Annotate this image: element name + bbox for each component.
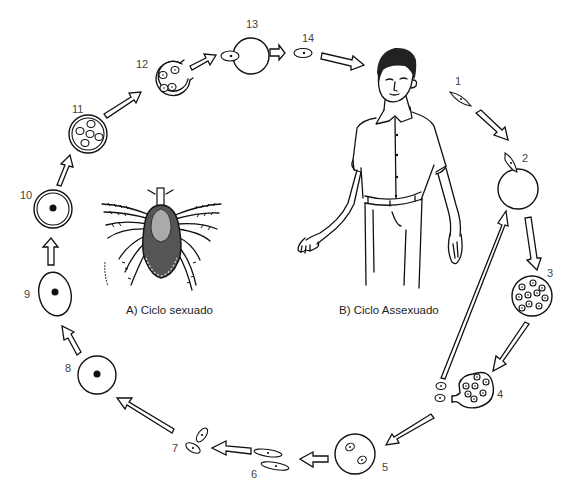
human-illustration (298, 48, 462, 288)
arrow-2-3 (525, 217, 541, 270)
arrow-11-12 (104, 92, 141, 118)
stage-3-label: 3 (547, 267, 553, 279)
arrow-5-6 (300, 452, 328, 467)
arrow-4-return-2 (441, 211, 508, 379)
stage-2-label: 2 (522, 152, 528, 164)
arrow-12-13 (190, 54, 216, 70)
sexual-cycle-caption: A) Ciclo sexuado (126, 304, 213, 316)
arrow-10-11 (57, 155, 73, 186)
stage-11: 11 (69, 103, 107, 153)
arrow-6-7 (212, 441, 251, 455)
arrow-7-8 (117, 398, 174, 433)
stage-13-label: 13 (246, 18, 258, 30)
stage-1-label: 1 (455, 75, 461, 87)
stage-5-label: 5 (382, 461, 388, 473)
stage-11-label: 11 (72, 103, 83, 115)
stage-14: 14 (294, 32, 314, 58)
stage-12-label: 12 (136, 58, 148, 70)
stage-9-label: 9 (24, 288, 30, 300)
stage-10-label: 10 (20, 189, 32, 201)
babesia-life-cycle-diagram: 13 14 12 11 (0, 0, 571, 495)
stage-6-label: 6 (251, 468, 257, 480)
stage-7-label: 7 (172, 442, 178, 454)
stage-10: 10 (20, 189, 72, 228)
stage-8: 8 (65, 356, 116, 394)
stage-12: 12 (136, 58, 193, 96)
asexual-cycle-caption: B) Ciclo Assexuado (339, 304, 439, 316)
arrow-3-4 (493, 322, 529, 371)
arrow-1-2 (476, 110, 508, 140)
stage-9: 9 (24, 269, 75, 319)
tick-illustration (102, 188, 221, 290)
stage-8-label: 8 (65, 362, 71, 374)
stage-4-label: 4 (497, 388, 503, 400)
arrow-4-5 (386, 414, 434, 445)
stage-2: 2 (498, 152, 538, 209)
stage-5: 5 (335, 434, 388, 474)
stage-6: 6 (251, 448, 289, 480)
arrow-14-human (321, 53, 364, 70)
stage-13: 13 (221, 18, 269, 74)
stage-3: 3 (512, 267, 553, 316)
arrow-9-10 (43, 238, 58, 265)
arrow-8-9 (62, 326, 81, 355)
arrow-13-14 (270, 45, 285, 60)
stage-1: 1 (450, 75, 471, 106)
stage-14-label: 14 (302, 32, 314, 44)
stage-7: 7 (172, 426, 210, 455)
